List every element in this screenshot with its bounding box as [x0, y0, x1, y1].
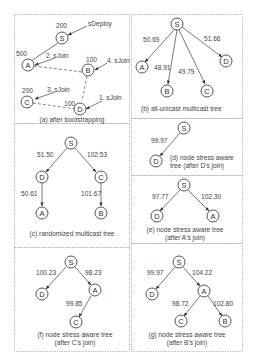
node-s: S — [178, 122, 190, 134]
node-c: C — [70, 316, 82, 328]
svg-text:C: C — [24, 98, 30, 107]
node-d: D — [36, 288, 48, 300]
node-d: D — [150, 155, 162, 167]
panel-f-caption-line1: (f) node stress aware tree — [37, 331, 112, 339]
edge-s-d — [182, 27, 222, 57]
node-b-value: 100 — [86, 56, 97, 63]
node-s: S — [65, 256, 77, 268]
svg-text:S: S — [176, 258, 181, 267]
event-label-sdeploy: sDeploy — [88, 20, 113, 28]
edge-s-c — [179, 30, 205, 84]
edge-weight-a-b: 102.80 — [213, 300, 234, 307]
svg-text:S: S — [181, 181, 186, 190]
event-label-1-sjoin: 1. sJoin — [99, 94, 122, 101]
edge-weight-c-b: 101.67 — [81, 190, 102, 197]
svg-text:C: C — [204, 87, 210, 96]
svg-text:D: D — [39, 173, 45, 182]
svg-text:B: B — [164, 87, 169, 96]
node-a: A — [136, 61, 148, 73]
edge-weight-s-a: 102.30 — [201, 193, 222, 200]
link-a-b — [34, 66, 82, 72]
node-a: A — [36, 207, 48, 219]
edge-weight-s-c: 49.79 — [178, 68, 195, 75]
node-a-value: 500 — [16, 50, 27, 57]
svg-text:A: A — [39, 209, 44, 218]
svg-text:A: A — [25, 61, 30, 70]
event-arrow-sdeploy — [68, 26, 87, 35]
edge-weight-s-a: 104.22 — [192, 269, 213, 276]
svg-text:C: C — [73, 318, 79, 327]
node-d: D — [146, 288, 158, 300]
node-s: S — [56, 32, 68, 44]
event-label-2-sjoin: 2. sJoin — [46, 52, 69, 59]
node-c: C — [95, 171, 107, 183]
panel-d-caption-line2: tree (after D's join) — [170, 162, 224, 170]
panel-g: S D A C B 99.97 104.22 98.72 102.80 (g) … — [146, 256, 234, 347]
panel-g-caption-line2: (after B's join) — [167, 339, 207, 347]
svg-text:A: A — [139, 63, 144, 72]
node-a: A — [198, 285, 210, 297]
node-b: B — [219, 315, 231, 327]
svg-text:D: D — [39, 290, 45, 299]
svg-text:S: S — [68, 139, 73, 148]
panel-e-caption-line1: (e) node stress aware tree — [147, 226, 224, 234]
panel-f: S D A C 100.23 98.23 99.85 (f) node stre… — [36, 256, 113, 347]
node-c: C — [175, 315, 187, 327]
edge-weight-s-d: 99.97 — [147, 269, 164, 276]
link-b-d — [82, 76, 87, 101]
node-c: C — [21, 96, 33, 108]
node-s: S — [171, 18, 183, 30]
edge-weight-s-a: 50.69 — [143, 36, 160, 43]
edge-weight-s-d: 99.97 — [151, 137, 168, 144]
svg-text:C: C — [178, 317, 184, 326]
panel-e: S D A 97.77 102.30 (e) node stress aware… — [147, 179, 224, 242]
node-s: S — [65, 137, 77, 149]
node-s: S — [173, 256, 185, 268]
panel-e-caption-line2: (after A's join) — [165, 234, 205, 242]
node-c: C — [201, 85, 213, 97]
edge-weight-s-d: 100.23 — [36, 269, 57, 276]
edge-s-b — [168, 30, 177, 84]
node-s-value: 200 — [56, 22, 67, 29]
event-label-3-sjoin: 3. sJoin — [47, 86, 70, 93]
edge-weight-s-b: 48.91 — [154, 64, 171, 71]
edge-weight-s-c: 102.53 — [87, 151, 108, 158]
panel-f-caption-line2: (after C's join) — [55, 339, 96, 347]
event-arrow-1-sjoin — [86, 101, 102, 109]
node-d: D — [151, 210, 163, 222]
svg-text:D: D — [77, 105, 83, 114]
svg-text:D: D — [223, 57, 229, 66]
node-b: B — [82, 64, 94, 76]
svg-text:S: S — [59, 34, 64, 43]
svg-text:A: A — [201, 287, 206, 296]
edge-weight-a-c: 98.72 — [172, 300, 189, 307]
svg-text:A: A — [92, 286, 97, 295]
node-d-value: 100 — [64, 100, 75, 107]
panel-a: S A B C D 200 500 100 200 100 sDeploy 1.… — [16, 20, 130, 124]
panel-g-caption-line1: (g) node stress aware tree — [149, 331, 226, 339]
node-d: D — [74, 103, 86, 115]
node-a: A — [207, 210, 219, 222]
panel-a-caption: (a) after bootstrapping — [40, 116, 105, 124]
svg-text:D: D — [154, 212, 160, 221]
edge-weight-a-c: 99.85 — [66, 300, 83, 307]
edge-s-a — [145, 29, 175, 62]
node-d: D — [220, 55, 232, 67]
multicast-tree-figure: S A B C D 200 500 100 200 100 sDeploy 1.… — [0, 0, 255, 364]
panel-d: S D 99.97 (d) node stress aware tree (af… — [150, 122, 234, 170]
edge-weight-s-d: 51.50 — [37, 151, 54, 158]
svg-text:S: S — [174, 20, 179, 29]
svg-text:D: D — [153, 157, 159, 166]
edge-weight-s-d: 51.66 — [204, 35, 221, 42]
svg-text:B: B — [222, 317, 227, 326]
svg-text:D: D — [149, 290, 155, 299]
node-b: B — [161, 85, 173, 97]
node-s: S — [178, 179, 190, 191]
node-b: B — [95, 207, 107, 219]
svg-text:A: A — [210, 212, 215, 221]
svg-text:C: C — [98, 173, 104, 182]
panel-c: S D C A B 51.50 102.53 50.61 101.67 (c) … — [21, 137, 115, 238]
svg-text:B: B — [85, 66, 90, 75]
edge-weight-d-a: 50.61 — [21, 190, 38, 197]
event-arrow-4-sjoin — [95, 63, 107, 70]
